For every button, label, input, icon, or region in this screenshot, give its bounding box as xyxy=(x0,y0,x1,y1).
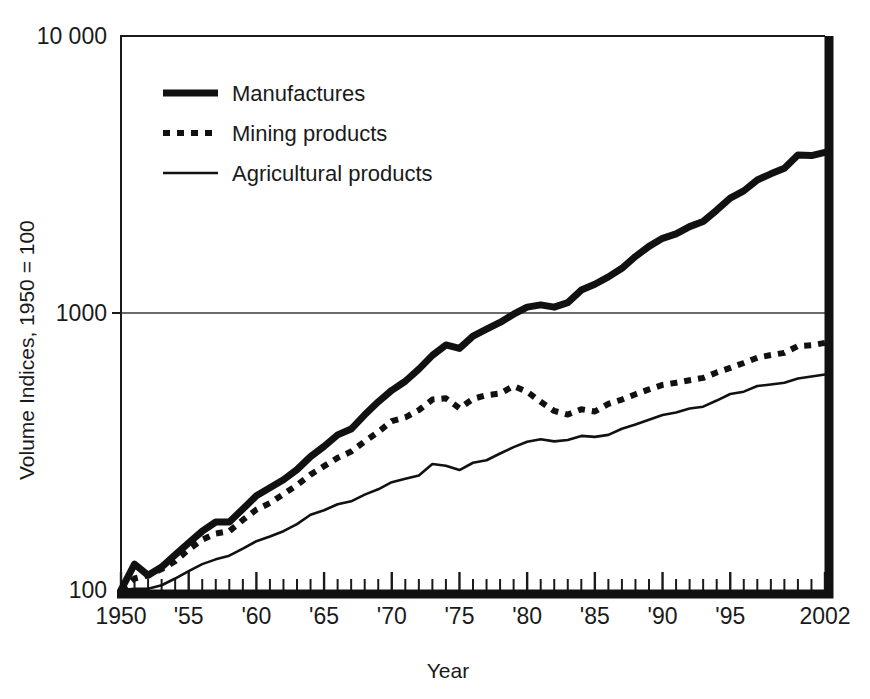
series-line-manufactures xyxy=(121,152,825,590)
y-tick-label-1000: 1000 xyxy=(56,300,107,326)
y-tick-label-100: 100 xyxy=(69,577,107,603)
legend-label-0: Manufactures xyxy=(232,81,365,106)
chart-figure: Volume Indices, 1950 = 100 Year 10 00010… xyxy=(0,0,870,699)
legend-item-mining-products: Mining products xyxy=(163,121,387,146)
y-axis-tick-labels: 10 0001000100 xyxy=(37,23,107,603)
y-axis-title-group: Volume Indices, 1950 = 100 xyxy=(15,220,38,480)
plot-axis-heavy xyxy=(117,36,829,594)
x-tick-label-1965: '65 xyxy=(309,603,339,629)
chart-legend: ManufacturesMining productsAgricultural … xyxy=(163,81,433,186)
y-axis-title: Volume Indices, 1950 = 100 xyxy=(15,220,38,480)
x-tick-label-1980: '80 xyxy=(512,603,542,629)
legend-label-1: Mining products xyxy=(232,121,387,146)
x-tick-label-1960: '60 xyxy=(241,603,271,629)
x-tick-label-1950: 1950 xyxy=(95,603,146,629)
x-tick-label-1995: '95 xyxy=(715,603,745,629)
legend-label-2: Agricultural products xyxy=(232,161,433,186)
x-tick-label-1990: '90 xyxy=(648,603,678,629)
volume-indices-line-chart: Volume Indices, 1950 = 100 Year 10 00010… xyxy=(0,0,870,699)
x-tick-label-1955: '55 xyxy=(174,603,204,629)
y-tick-label-10000: 10 000 xyxy=(37,23,107,49)
legend-item-manufactures: Manufactures xyxy=(163,81,365,106)
x-tick-label-2002: 2002 xyxy=(799,603,850,629)
series-line-mining-products xyxy=(121,343,825,590)
x-tick-label-1985: '85 xyxy=(580,603,610,629)
x-tick-label-1970: '70 xyxy=(377,603,407,629)
x-tick-label-1975: '75 xyxy=(444,603,474,629)
series-line-agricultural-products xyxy=(121,374,825,590)
x-axis-tick-labels: 1950'55'60'65'70'75'80'85'90'952002 xyxy=(95,603,850,629)
x-axis-tickmarks xyxy=(121,572,825,590)
x-axis-title: Year xyxy=(427,659,469,682)
legend-item-agricultural-products: Agricultural products xyxy=(163,161,433,186)
